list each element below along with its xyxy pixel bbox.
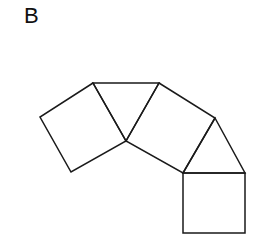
square-left (40, 83, 126, 172)
square-bottom (183, 173, 245, 233)
triangle-top (93, 83, 159, 141)
geometric-net-diagram (0, 0, 266, 236)
triangle-right (183, 118, 245, 173)
square-middle (126, 83, 215, 173)
